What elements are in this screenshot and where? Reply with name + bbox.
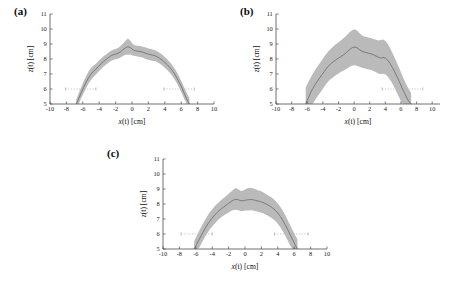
svg-text:-6: -6 [193, 250, 198, 257]
svg-text:4: 4 [276, 250, 280, 257]
svg-text:10: 10 [429, 105, 435, 112]
svg-text:0: 0 [243, 250, 246, 257]
svg-text:10: 10 [211, 105, 217, 112]
svg-text:6: 6 [293, 250, 296, 257]
svg-text:x(t) [cm]: x(t) [cm] [118, 117, 146, 126]
panel-a-plot: -10-8-6-4-20246810567891011x(t) [cm]z(t)… [0, 0, 228, 143]
svg-text:10: 10 [324, 250, 330, 257]
svg-text:6: 6 [157, 230, 160, 237]
svg-text:z(t) [cm]: z(t) [cm] [139, 191, 148, 218]
svg-text:-8: -8 [64, 105, 69, 112]
panel-b: (b) -10-8-6-4-20246810567891011x(t) [cm]… [226, 0, 454, 143]
svg-text:8: 8 [157, 200, 160, 207]
panel-a: (a) -10-8-6-4-20246810567891011x(t) [cm]… [0, 0, 228, 143]
svg-text:10: 10 [40, 25, 46, 32]
svg-text:-8: -8 [177, 250, 182, 257]
svg-text:5: 5 [157, 245, 160, 252]
svg-text:5: 5 [44, 100, 47, 107]
svg-text:-4: -4 [97, 105, 103, 112]
svg-text:9: 9 [44, 40, 47, 47]
svg-text:6: 6 [270, 85, 273, 92]
panel-a-label: (a) [14, 5, 27, 17]
svg-text:-4: -4 [320, 105, 326, 112]
svg-text:11: 11 [267, 10, 273, 17]
svg-text:4: 4 [163, 105, 167, 112]
svg-text:-4: -4 [210, 250, 216, 257]
svg-text:8: 8 [44, 55, 47, 62]
panel-c-label: (c) [107, 147, 119, 159]
svg-text:-6: -6 [305, 105, 310, 112]
svg-text:z(t) [cm]: z(t) [cm] [26, 46, 35, 73]
svg-text:6: 6 [399, 105, 402, 112]
panel-c: (c) -10-8-6-4-20246810567891011x(t) [cm]… [113, 143, 341, 287]
svg-text:x(t) [cm]: x(t) [cm] [344, 117, 372, 126]
svg-text:-2: -2 [336, 105, 341, 112]
svg-text:7: 7 [44, 70, 48, 77]
figure-container: (a) -10-8-6-4-20246810567891011x(t) [cm]… [0, 0, 457, 287]
svg-text:z(t) [cm]: z(t) [cm] [252, 46, 261, 73]
svg-text:2: 2 [368, 105, 371, 112]
svg-text:0: 0 [352, 105, 355, 112]
svg-text:10: 10 [266, 25, 272, 32]
svg-text:-6: -6 [80, 105, 85, 112]
svg-text:11: 11 [41, 10, 47, 17]
svg-text:7: 7 [157, 215, 161, 222]
svg-text:x(t) [cm]: x(t) [cm] [231, 262, 259, 271]
svg-text:6: 6 [44, 85, 47, 92]
svg-text:2: 2 [147, 105, 150, 112]
panel-b-plot: -10-8-6-4-20246810567891011x(t) [cm]z(t)… [226, 0, 454, 143]
panel-c-plot: -10-8-6-4-20246810567891011x(t) [cm]z(t)… [113, 143, 341, 287]
svg-text:-10: -10 [46, 105, 55, 112]
svg-text:-2: -2 [113, 105, 118, 112]
svg-text:2: 2 [260, 250, 263, 257]
svg-text:8: 8 [270, 55, 273, 62]
svg-text:8: 8 [309, 250, 312, 257]
svg-text:6: 6 [180, 105, 183, 112]
svg-text:10: 10 [153, 170, 159, 177]
svg-text:-8: -8 [289, 105, 294, 112]
svg-text:0: 0 [130, 105, 133, 112]
svg-text:7: 7 [270, 70, 274, 77]
svg-text:-2: -2 [226, 250, 231, 257]
panel-b-label: (b) [240, 5, 253, 17]
svg-text:-10: -10 [272, 105, 281, 112]
svg-text:9: 9 [270, 40, 273, 47]
svg-text:11: 11 [154, 155, 160, 162]
svg-text:8: 8 [196, 105, 199, 112]
svg-text:4: 4 [384, 105, 388, 112]
svg-text:9: 9 [157, 185, 160, 192]
svg-text:-10: -10 [159, 250, 168, 257]
svg-text:5: 5 [270, 100, 273, 107]
svg-text:8: 8 [415, 105, 418, 112]
